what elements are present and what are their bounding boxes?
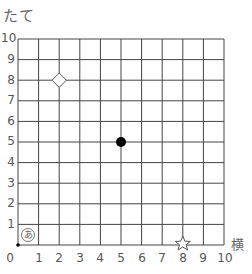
x-tick-0: 0 bbox=[0, 251, 20, 265]
x-tick-10: 10 bbox=[215, 251, 235, 265]
y-tick-9: 9 bbox=[1, 52, 15, 66]
y-tick-2: 2 bbox=[1, 196, 15, 210]
diamond-marker bbox=[52, 73, 66, 87]
circled-a-label: あ bbox=[22, 228, 34, 241]
y-tick-1: 1 bbox=[1, 217, 15, 231]
x-tick-9: 9 bbox=[193, 251, 213, 265]
x-tick-1: 1 bbox=[29, 251, 49, 265]
cropped-caption: - - - - - bbox=[200, 268, 252, 274]
y-tick-5: 5 bbox=[1, 134, 15, 148]
x-tick-5: 5 bbox=[111, 251, 131, 265]
y-tick-4: 4 bbox=[1, 155, 15, 169]
coordinate-grid bbox=[0, 0, 252, 274]
y-tick-10: 10 bbox=[1, 31, 15, 45]
y-tick-6: 6 bbox=[1, 114, 15, 128]
x-tick-2: 2 bbox=[49, 251, 69, 265]
y-tick-8: 8 bbox=[1, 73, 15, 87]
filled-circle-marker bbox=[116, 137, 126, 147]
x-tick-4: 4 bbox=[90, 251, 110, 265]
x-tick-8: 8 bbox=[173, 251, 193, 265]
x-tick-3: 3 bbox=[70, 251, 90, 265]
x-axis-title: 横 bbox=[231, 234, 244, 253]
x-tick-7: 7 bbox=[152, 251, 172, 265]
x-tick-6: 6 bbox=[132, 251, 152, 265]
star-marker bbox=[175, 236, 190, 250]
y-tick-7: 7 bbox=[1, 93, 15, 107]
origin-dot bbox=[16, 243, 20, 247]
y-tick-3: 3 bbox=[1, 176, 15, 190]
